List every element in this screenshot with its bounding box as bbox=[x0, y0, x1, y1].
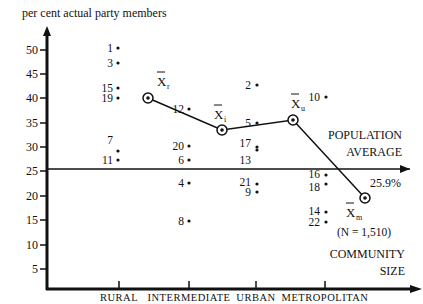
svg-text:20: 20 bbox=[26, 189, 38, 203]
svg-text:5: 5 bbox=[32, 262, 38, 276]
svg-text:1: 1 bbox=[107, 42, 113, 54]
svg-text:m: m bbox=[356, 213, 363, 222]
average-value: 25.9% bbox=[370, 176, 401, 190]
svg-text:X: X bbox=[214, 107, 224, 122]
svg-text:COMMUNITY: COMMUNITY bbox=[330, 247, 406, 261]
svg-text:2: 2 bbox=[245, 79, 251, 91]
svg-text:i: i bbox=[224, 115, 227, 124]
svg-text:INTERMEDIATE: INTERMEDIATE bbox=[148, 292, 231, 303]
svg-text:40: 40 bbox=[26, 91, 38, 105]
x-tick-labels: RURAL INTERMEDIATE URBAN METROPOLITAN bbox=[100, 292, 368, 303]
svg-text:45: 45 bbox=[26, 67, 38, 81]
svg-text:22: 22 bbox=[309, 216, 321, 228]
svg-text:35: 35 bbox=[26, 116, 38, 130]
y-tick-labels: 50 45 40 35 30 25 20 15 10 5 bbox=[26, 43, 38, 276]
svg-text:15: 15 bbox=[26, 213, 38, 227]
svg-text:URBAN: URBAN bbox=[236, 292, 275, 303]
svg-text:X: X bbox=[157, 74, 167, 89]
svg-text:X: X bbox=[346, 205, 356, 220]
n-annotation: (N = 1,510) bbox=[337, 226, 391, 239]
svg-text:RURAL: RURAL bbox=[100, 292, 138, 303]
y-axis-label: per cent actual party members bbox=[22, 6, 167, 20]
svg-text:3: 3 bbox=[107, 57, 113, 69]
svg-text:13: 13 bbox=[240, 154, 252, 166]
svg-text:u: u bbox=[301, 104, 305, 113]
svg-text:8: 8 bbox=[178, 215, 184, 227]
svg-text:50: 50 bbox=[26, 43, 38, 57]
community-size-label: COMMUNITY SIZE bbox=[330, 247, 406, 278]
average-arrow-icon bbox=[400, 165, 410, 173]
svg-text:SIZE: SIZE bbox=[380, 264, 405, 278]
svg-text:30: 30 bbox=[26, 140, 38, 154]
svg-text:X: X bbox=[291, 96, 301, 111]
svg-text:7: 7 bbox=[107, 134, 113, 146]
svg-text:r: r bbox=[167, 82, 170, 91]
chart: per cent actual party members 50 45 40 3… bbox=[0, 0, 423, 304]
svg-text:5: 5 bbox=[245, 117, 251, 129]
svg-text:10: 10 bbox=[309, 91, 321, 103]
svg-text:10: 10 bbox=[26, 238, 38, 252]
svg-text:AVERAGE: AVERAGE bbox=[346, 145, 402, 159]
svg-text:POPULATION: POPULATION bbox=[328, 128, 402, 142]
svg-text:9: 9 bbox=[245, 186, 251, 198]
svg-text:20: 20 bbox=[173, 140, 185, 152]
svg-text:METROPOLITAN: METROPOLITAN bbox=[282, 292, 369, 303]
svg-text:18: 18 bbox=[309, 181, 321, 193]
svg-text:25: 25 bbox=[26, 164, 38, 178]
point-labels: 1 3 15 19 7 11 12 20 6 4 8 2 5 17 13 21 … bbox=[102, 42, 321, 228]
x-axis-arrow-icon bbox=[410, 285, 422, 293]
svg-text:11: 11 bbox=[102, 154, 113, 166]
svg-text:17: 17 bbox=[240, 137, 252, 149]
svg-text:16: 16 bbox=[309, 168, 321, 180]
svg-text:6: 6 bbox=[178, 154, 184, 166]
svg-text:4: 4 bbox=[178, 177, 184, 189]
svg-text:19: 19 bbox=[102, 92, 114, 104]
svg-text:12: 12 bbox=[173, 103, 185, 115]
population-average-label: POPULATION AVERAGE bbox=[328, 128, 402, 159]
y-axis-arrow-icon bbox=[43, 26, 51, 36]
